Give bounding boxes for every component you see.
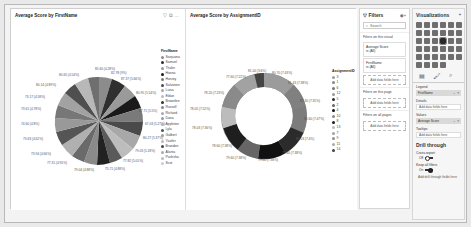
search-icon: ⌕ — [366, 24, 368, 28]
stacked-bar-icon[interactable] — [416, 22, 422, 28]
pie-label: 73.94 (4.66%) — [31, 152, 51, 156]
remove-field-icon[interactable]: ⌄ × — [453, 119, 459, 123]
line-chart-icon[interactable] — [416, 30, 422, 36]
pie-label: 80.14 (4.89%) — [36, 83, 56, 87]
more-visuals-icon[interactable] — [440, 62, 446, 68]
legend-item[interactable]: 14 — [332, 147, 355, 153]
legend-well-label: Legend — [413, 83, 464, 89]
tooltips-well-label: Tooltips — [413, 125, 464, 131]
clustered-column-icon[interactable] — [440, 22, 446, 28]
remove-field-icon[interactable]: ⌄ × — [453, 91, 459, 95]
drill-through-dropzone[interactable]: Add drill-through fields here — [416, 174, 461, 180]
fields-tab-icon[interactable]: ▤ — [419, 72, 425, 79]
report-canvas: Average Score by FirstName ▽ ⧉ … — [10, 8, 356, 209]
area-chart-icon[interactable] — [424, 30, 430, 36]
pie-label: 77.31 (4.95%) — [47, 161, 67, 165]
gauge-icon[interactable] — [440, 46, 446, 52]
donut-visual[interactable]: Average Score by AssignmentID 81.00 (3.6… — [186, 9, 357, 210]
filters-search-input[interactable]: ⌕Search — [363, 22, 406, 29]
legend-item[interactable]: Scot — [161, 161, 180, 167]
details-dropzone[interactable]: Add data fields here — [416, 104, 461, 110]
legend-field-pill[interactable]: FirstName⌄ × — [416, 90, 461, 96]
pie-label: 73.61 (4.78%) — [21, 107, 41, 111]
donut-label: 78.03 (7.36%) — [192, 126, 212, 130]
tooltips-dropzone[interactable]: Add data fields here — [416, 132, 461, 138]
line-clustered-icon[interactable] — [448, 30, 454, 36]
add-page-filter-dropzone[interactable]: Add data fields here — [363, 98, 406, 108]
scatter-icon[interactable] — [432, 38, 438, 44]
collapse-icon[interactable]: » — [404, 13, 406, 18]
waterfall-icon[interactable] — [416, 38, 422, 44]
pie-legend: FirstName Sanjuana Samuel Thaler Hanna H… — [161, 49, 180, 166]
pie-label: 79.04 (4.88%) — [74, 168, 94, 172]
qa-icon[interactable] — [432, 62, 438, 68]
donut-label: 80.70 (7.43%) — [272, 71, 292, 75]
python-visual-icon[interactable] — [456, 54, 462, 60]
donut-label: 80.03 (7.4%) — [296, 137, 314, 141]
filter-card-firstname[interactable]: FirstNameis (All) — [363, 58, 406, 73]
add-visual-filter-dropzone[interactable]: Add data fields here — [363, 75, 406, 85]
donut-label: 81.00 (3.6%) — [248, 69, 266, 73]
format-tab-icon[interactable]: 🖌 — [433, 72, 441, 79]
funnel-icon[interactable] — [424, 38, 430, 44]
r-visual-icon[interactable] — [448, 54, 454, 60]
card-icon[interactable] — [448, 46, 454, 52]
key-influencers-icon[interactable] — [416, 62, 422, 68]
filters-on-page-header: Filters on this page — [360, 87, 409, 96]
decomposition-tree-icon[interactable] — [424, 62, 430, 68]
pie-chart-icon[interactable] — [440, 38, 446, 44]
values-field-pill[interactable]: Average Score⌄ × — [416, 118, 461, 124]
clustered-bar-icon[interactable] — [432, 22, 438, 28]
viz-pane-tabs: ▤🖌⌕ — [413, 69, 464, 83]
filters-pane: ▽ Filters ◉ » ⌕Search Filters on this vi… — [359, 8, 410, 209]
drill-through-title: Drill through — [413, 139, 464, 149]
100-bar-icon[interactable] — [448, 22, 454, 28]
eye-icon[interactable]: ◉ — [400, 13, 403, 18]
kpi-icon[interactable] — [416, 54, 422, 60]
pie-label: 77.82 (5.01%) — [123, 159, 143, 163]
filters-title: Filters — [368, 12, 383, 18]
analytics-tab-icon[interactable]: ⌕ — [449, 72, 452, 79]
pie-label: 87.71 (5.5%) — [139, 109, 157, 113]
pie-visual[interactable]: Average Score by FirstName ▽ ⧉ … — [11, 9, 186, 210]
visualizations-title: Visualizations — [416, 12, 449, 18]
pie-label: 73.17 (4.58%) — [25, 95, 45, 99]
pie-label: 74.60 (4.8%) — [21, 122, 39, 126]
azure-map-icon[interactable] — [432, 46, 438, 52]
add-report-filter-dropzone[interactable]: Add data fields here — [363, 121, 406, 131]
stacked-column-icon[interactable] — [424, 22, 430, 28]
pie-label: 73.63 (4.62%) — [23, 137, 43, 141]
donut-label: 79.60 (7.38%) — [258, 158, 278, 162]
line-column-icon[interactable] — [440, 30, 446, 36]
ribbon-icon[interactable] — [456, 30, 462, 36]
visual-type-gallery — [413, 21, 464, 69]
donut-chart-icon[interactable] — [448, 38, 454, 44]
donut-label: 81.30 (7.35%) — [300, 99, 320, 103]
pie-label: 87.37 (5.66%) — [121, 77, 141, 81]
matrix-icon[interactable] — [440, 54, 446, 60]
treemap-icon[interactable] — [456, 38, 462, 44]
keep-filters-toggle[interactable]: On — [413, 167, 464, 173]
pie-label: 80.95 (5.54%) — [136, 91, 156, 95]
donut-legend: AssignmentID 3 1 6 12 5 2 4 10 8 13 7 9 … — [332, 69, 355, 153]
donut-label: 80.60 (7.47%) — [304, 117, 324, 121]
pie-label: 80.65 (4.54%) — [59, 73, 79, 77]
filled-map-icon[interactable] — [424, 46, 430, 52]
multi-card-icon[interactable] — [456, 46, 462, 52]
donut-label: 78.05 (7.52%) — [190, 107, 210, 111]
visualizations-pane: Visualizations» ▤🖌⌕ Legend FirstName⌄ × … — [412, 8, 465, 220]
values-well-label: Values — [413, 111, 464, 117]
filters-on-visual-header: Filters on this visual — [360, 32, 409, 41]
map-icon[interactable] — [416, 46, 422, 52]
pie-label: 79.03 (5.18%) — [135, 149, 155, 153]
100-column-icon[interactable] — [456, 22, 462, 28]
collapse-icon[interactable]: » — [459, 12, 461, 18]
stacked-area-icon[interactable] — [432, 30, 438, 36]
donut-label: 78.60 (7.38%) — [212, 144, 232, 148]
slicer-icon[interactable] — [424, 54, 430, 60]
filter-card-average-score[interactable]: Average Scoreis (All) — [363, 42, 406, 57]
donut-label: 79.60 (7.38%) — [282, 151, 302, 155]
table-icon[interactable] — [432, 54, 438, 60]
pie-label: 75.71 (4.88%) — [105, 167, 125, 171]
filter-icon: ▽ — [363, 12, 367, 18]
